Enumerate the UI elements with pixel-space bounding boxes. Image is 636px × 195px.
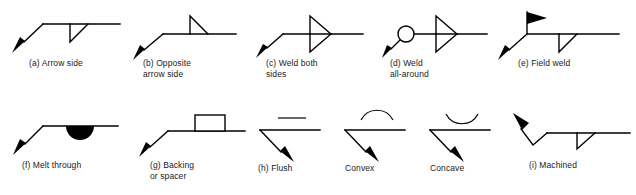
caption-field-weld: (e) Field weld (518, 58, 636, 69)
symbol-cell-flush: (h) Flush (258, 110, 353, 188)
caption-convex: Convex (345, 163, 435, 174)
caption-backing-or-spacer: (g) Backing or spacer (150, 160, 270, 181)
caption-weld-all-around: (d) Weld all-around (390, 58, 510, 79)
symbol-cell-weld-both-sides: (c) Weld both sides (255, 8, 380, 88)
arrow-side-symbol (8, 8, 128, 58)
symbol-cell-backing-or-spacer: (g) Backing or spacer (133, 103, 258, 188)
caption-flush: (h) Flush (258, 163, 348, 174)
symbol-cell-opposite-arrow-side: (b) Opposite arrow side (128, 8, 248, 88)
field-weld-symbol (497, 8, 629, 58)
convex-contour-arc-icon (361, 110, 393, 120)
field-weld-flag-icon (527, 12, 547, 24)
caption-arrow-side: (a) Arrow side (29, 58, 139, 69)
opposite-arrow-side-symbol (128, 8, 248, 58)
caption-machined: (i) Machined (529, 160, 636, 171)
symbol-cell-machined: (i) Machined (505, 103, 633, 188)
caption-weld-both-sides: (c) Weld both sides (266, 58, 386, 79)
melt-through-symbol (8, 108, 133, 156)
backing-or-spacer-symbol (133, 103, 258, 158)
convex-symbol (343, 110, 438, 162)
symbol-cell-convex: Convex (343, 110, 438, 188)
flush-symbol (258, 110, 353, 162)
symbol-cell-arrow-side: (a) Arrow side (8, 8, 128, 88)
symbol-cell-field-weld: (e) Field weld (497, 8, 629, 88)
caption-opposite-arrow-side: (b) Opposite arrow side (143, 58, 253, 79)
welding-symbols-figure: (a) Arrow side (b) Opposite arrow side (… (0, 0, 636, 195)
symbol-cell-weld-all-around: (d) Weld all-around (382, 8, 507, 88)
backing-spacer-rectangle-icon (195, 115, 225, 131)
concave-contour-arc-icon (446, 114, 478, 124)
caption-melt-through: (f) Melt through (22, 160, 142, 171)
machined-symbol (505, 103, 633, 158)
melt-through-semicircle-icon (66, 126, 94, 140)
weld-all-around-circle-icon (398, 26, 414, 42)
symbol-cell-melt-through: (f) Melt through (8, 108, 133, 188)
weld-all-around-symbol (382, 8, 507, 58)
weld-both-sides-symbol (255, 8, 380, 58)
